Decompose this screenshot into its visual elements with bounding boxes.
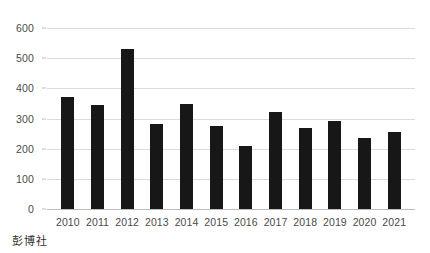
x-tick-label-2014: 2014	[175, 216, 199, 228]
x-tick-label-2017: 2017	[264, 216, 288, 228]
x-tick-label-2011: 2011	[86, 216, 109, 228]
y-tick-500	[42, 58, 46, 59]
bar-slot	[112, 28, 142, 209]
x-tick-label-2012: 2012	[115, 216, 139, 228]
x-tick-label-2018: 2018	[293, 216, 317, 228]
y-tick-label-500: 500	[16, 52, 41, 64]
x-slot: 2018	[290, 212, 320, 230]
bar-slot	[172, 28, 202, 209]
x-slot: 2017	[261, 212, 291, 230]
bar-2015	[210, 126, 223, 209]
bar-2013	[150, 124, 163, 209]
y-tick-label-600: 600	[16, 22, 41, 34]
gridline-0	[47, 209, 415, 210]
bar-slot	[83, 28, 113, 209]
bar-2011	[91, 105, 104, 209]
y-tick-400	[42, 88, 46, 89]
y-tick-label-0: 0	[28, 203, 41, 215]
bar-slot	[379, 28, 409, 209]
bar-slot	[350, 28, 380, 209]
x-slot: 2011	[83, 212, 113, 230]
bar-chart: 0100200300400500600 20102011201220132014…	[0, 0, 430, 253]
bar-slot	[142, 28, 172, 209]
x-slot: 2016	[231, 212, 261, 230]
plot-area	[47, 28, 415, 209]
y-tick-100	[42, 178, 46, 179]
x-tick-label-2016: 2016	[234, 216, 258, 228]
bar-2010	[61, 97, 74, 209]
y-axis: 0100200300400500600	[0, 28, 41, 209]
x-slot: 2013	[142, 212, 172, 230]
x-slot: 2019	[320, 212, 350, 230]
bar-slot	[201, 28, 231, 209]
bar-slot	[231, 28, 261, 209]
x-slot: 2012	[112, 212, 142, 230]
y-tick-label-400: 400	[16, 82, 41, 94]
bar-2014	[180, 104, 193, 209]
y-tick-600	[42, 28, 46, 29]
bar-slot	[320, 28, 350, 209]
bar-2016	[239, 146, 252, 209]
bar-2019	[328, 121, 341, 209]
x-tick-label-2010: 2010	[56, 216, 80, 228]
bar-2017	[269, 112, 282, 209]
bar-2021	[388, 132, 401, 209]
x-slot: 2021	[379, 212, 409, 230]
bar-2012	[121, 49, 134, 209]
x-slot: 2020	[350, 212, 380, 230]
y-tick-label-100: 100	[16, 173, 41, 185]
x-tick-label-2019: 2019	[323, 216, 347, 228]
bar-slot	[53, 28, 83, 209]
y-tick-label-200: 200	[16, 143, 41, 155]
y-tick-0	[42, 209, 46, 210]
bar-slot	[261, 28, 291, 209]
bar-series	[47, 28, 415, 209]
y-tick-200	[42, 148, 46, 149]
y-tick-300	[42, 118, 46, 119]
x-tick-label-2015: 2015	[204, 216, 228, 228]
bar-slot	[290, 28, 320, 209]
x-tick-label-2013: 2013	[145, 216, 169, 228]
bar-2018	[299, 128, 312, 209]
x-slot: 2010	[53, 212, 83, 230]
y-tick-label-300: 300	[16, 113, 41, 125]
x-slot: 2014	[172, 212, 202, 230]
x-tick-label-2020: 2020	[353, 216, 377, 228]
bar-2020	[358, 138, 371, 209]
x-slot: 2015	[201, 212, 231, 230]
x-axis: 2010201120122013201420152016201720182019…	[47, 212, 415, 230]
x-tick-label-2021: 2021	[382, 216, 406, 228]
source-note: 彭博社	[12, 232, 48, 248]
